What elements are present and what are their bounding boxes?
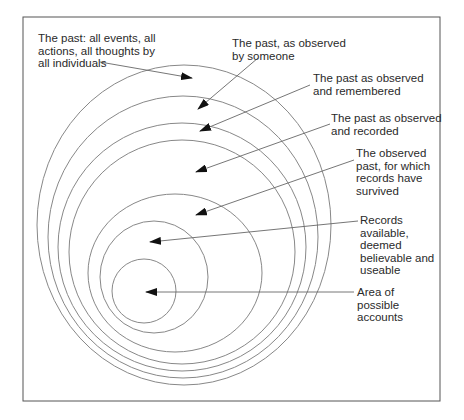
circle-2	[48, 96, 318, 378]
label-accounts: Area of possible accounts	[357, 286, 403, 324]
arrow-observed	[198, 58, 258, 109]
arrow-recorded	[196, 124, 330, 172]
circle-4	[69, 140, 295, 364]
circle-group	[37, 65, 331, 385]
label-survived: The observed past, for which records hav…	[356, 147, 430, 197]
arrow-remembered	[200, 85, 310, 131]
label-usable: Records available, deemed believable and…	[360, 214, 434, 277]
label-remembered: The past as observed and remembered	[313, 72, 424, 97]
circle-3	[58, 123, 306, 371]
circle-7	[112, 259, 176, 323]
label-recorded: The past as observed and recorded	[331, 112, 442, 137]
circle-1	[37, 65, 331, 385]
label-all-past: The past: all events, all actions, all t…	[38, 32, 156, 70]
label-observed: The past, as observed by someone	[232, 37, 346, 62]
